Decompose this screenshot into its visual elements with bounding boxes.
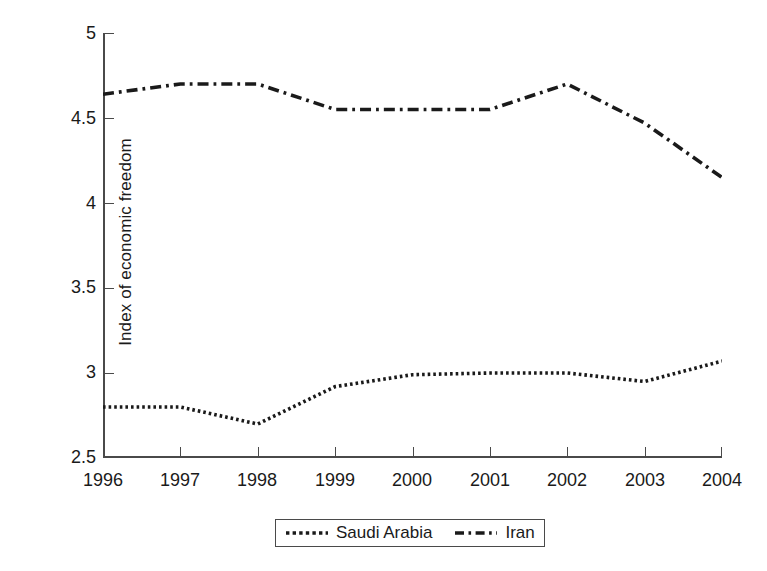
- chart-figure: Index of economic freedom 5 4.5 4 3.5 3 …: [0, 0, 767, 571]
- series-line-iran: [103, 84, 722, 178]
- plot-canvas: [103, 33, 722, 458]
- x-tick-label-2001: 2001: [455, 470, 525, 491]
- y-tick-label-3-5: 3.5: [56, 278, 96, 296]
- x-axis-tick-marks: [104, 447, 722, 457]
- x-tick-label-1997: 1997: [145, 470, 215, 491]
- x-tick-label-2003: 2003: [610, 470, 680, 491]
- x-tick-label-1996: 1996: [68, 470, 138, 491]
- x-tick-label-1999: 1999: [300, 470, 370, 491]
- y-tick-label-5: 5: [56, 24, 96, 42]
- data-series-group: [103, 84, 722, 424]
- x-tick-label-2002: 2002: [532, 470, 602, 491]
- legend-label-iran: Iran: [505, 523, 534, 543]
- legend-label-saudi-arabia: Saudi Arabia: [336, 523, 432, 543]
- series-line-saudi-arabia: [103, 361, 722, 424]
- legend-swatch-dotted-icon: [285, 526, 329, 540]
- plot-area: [103, 33, 722, 458]
- y-axis-tick-marks: [104, 34, 114, 459]
- y-tick-label-4: 4: [56, 194, 96, 212]
- y-tick-label-3: 3: [56, 363, 96, 381]
- legend-entry-saudi-arabia: Saudi Arabia: [285, 523, 432, 543]
- y-tick-label-4-5: 4.5: [56, 109, 96, 127]
- legend-entry-iran: Iran: [454, 523, 534, 543]
- chart-legend: Saudi Arabia Iran: [275, 519, 545, 547]
- y-tick-label-2-5: 2.5: [56, 448, 96, 466]
- x-tick-label-2000: 2000: [377, 470, 447, 491]
- x-tick-label-1998: 1998: [222, 470, 292, 491]
- legend-swatch-dashdot-icon: [454, 526, 498, 540]
- axis-lines: [103, 33, 722, 458]
- x-tick-label-2004: 2004: [687, 470, 757, 491]
